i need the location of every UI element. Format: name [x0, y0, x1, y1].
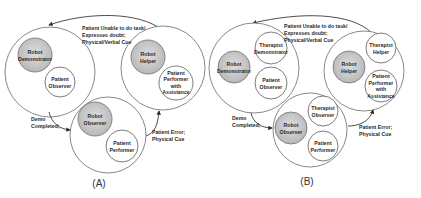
panel-caption: (A)	[92, 178, 105, 189]
node-label: Robot	[227, 61, 242, 67]
node-label: Therapist	[259, 42, 283, 48]
node-label: Observer	[49, 83, 72, 89]
state-helping: Robot Helper Patient Performer with Assi…	[121, 26, 205, 110]
node-label: Patient	[167, 70, 185, 76]
svg-text:Demo: Demo	[232, 115, 246, 121]
node-label: Performer	[110, 147, 135, 153]
node-label: Robot	[342, 61, 357, 67]
node-label: Observer	[280, 129, 303, 135]
node-label: Assistance	[367, 93, 395, 99]
node-label: Helper	[341, 68, 357, 74]
node-label: Therapist	[311, 105, 335, 111]
node-label: Helper	[140, 58, 156, 64]
edge-label-patient-error: Patient Error; Physical Cue	[359, 124, 392, 137]
node-label: Demonstrator	[254, 49, 288, 55]
panel-caption: (B)	[300, 176, 313, 187]
node-label: Patient	[113, 140, 131, 146]
node-label: Performer	[164, 76, 189, 82]
svg-text:Completed;: Completed;	[232, 122, 261, 128]
node-label: Demonstrator	[217, 68, 251, 74]
node-label: Robot	[284, 122, 299, 128]
state-observing: Robot Observer Patient Performer	[70, 97, 146, 173]
node-label: Patient	[51, 76, 69, 82]
svg-text:Expresses doubt;: Expresses doubt;	[82, 32, 126, 38]
svg-text:Physical Cue: Physical Cue	[359, 131, 391, 137]
node-label: Performer	[311, 147, 336, 153]
svg-text:Patient Unable to do task/: Patient Unable to do task/	[284, 23, 348, 29]
node-label: Observer	[260, 84, 283, 90]
panel-a: Robot Demonstrator Patient Observer Robo…	[5, 15, 205, 189]
svg-text:Physical/Verbal Cue: Physical/Verbal Cue	[284, 37, 333, 43]
node-label: with	[170, 83, 181, 89]
node-label: Observer	[84, 120, 107, 126]
node-label: Robot	[141, 51, 156, 57]
node-label: Assistance	[162, 89, 190, 95]
svg-text:Patient Unable to do task/: Patient Unable to do task/	[82, 25, 146, 31]
state-diagram: Robot Demonstrator Patient Observer Robo…	[0, 0, 421, 198]
panel-b: Therapist Demonstrator Robot Demonstrato…	[209, 16, 404, 187]
svg-text:Patient Error;: Patient Error;	[152, 129, 185, 135]
edge-label-demo-completed: Demo Completed;	[31, 116, 60, 129]
node-label: Performer	[369, 80, 394, 86]
svg-text:Physical Cue: Physical Cue	[152, 136, 184, 142]
node-label: Demonstrator	[18, 56, 52, 62]
node-label: Observer	[312, 112, 335, 118]
node-label: Robot	[28, 49, 43, 55]
state-helping: Therapist Helper Robot Helper Patient Pe…	[324, 31, 404, 111]
svg-text:Expresses doubt;: Expresses doubt;	[284, 30, 328, 36]
node-label: Helper	[373, 49, 389, 55]
svg-text:Patient Error;: Patient Error;	[359, 124, 392, 130]
svg-text:Completed;: Completed;	[31, 123, 60, 129]
node-label: Therapist	[369, 42, 393, 48]
edge-label-patient-error: Patient Error; Physical Cue	[152, 129, 185, 142]
node-label: Robot	[88, 113, 103, 119]
node-label: Patient	[262, 77, 280, 83]
node-label: Patient	[314, 140, 332, 146]
node-label: with	[375, 86, 386, 92]
node-label: Patient	[372, 73, 390, 79]
svg-text:Demo: Demo	[31, 116, 45, 122]
svg-text:Physical/Verbal Cue: Physical/Verbal Cue	[82, 39, 131, 45]
state-circle	[121, 26, 205, 110]
edge-label-demo-completed: Demo Completed;	[232, 115, 261, 128]
state-observing: Therapist Observer Robot Observer Patien…	[273, 93, 347, 167]
